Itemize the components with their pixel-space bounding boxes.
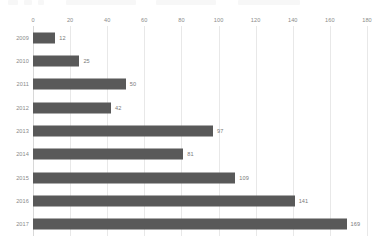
y-axis-label-2010: 2010	[4, 57, 29, 65]
bar-2010	[33, 55, 79, 66]
x-tick-label-160: 160	[325, 15, 335, 26]
y-axis-label-2014: 2014	[4, 150, 29, 158]
x-tick-label-100: 100	[214, 15, 224, 26]
bar-row: 2017169	[0, 213, 378, 236]
x-tick-label-20: 20	[67, 15, 73, 26]
y-axis-label-2016: 2016	[4, 197, 29, 205]
bar-value-label-2011: 50	[130, 80, 136, 88]
bar-value-label-2013: 97	[217, 127, 223, 135]
bar-2016	[33, 195, 295, 206]
bar-row: 201025	[0, 49, 378, 72]
bar-value-label-2016: 141	[299, 197, 309, 205]
bar-2009	[33, 32, 55, 43]
x-tick-label-140: 140	[288, 15, 298, 26]
y-axis-label-2012: 2012	[4, 104, 29, 112]
x-tick-label-60: 60	[141, 15, 147, 26]
bar-row: 201242	[0, 96, 378, 119]
x-tick-label-0: 0	[31, 15, 34, 26]
bar-value-label-2012: 42	[115, 104, 121, 112]
bar-value-label-2015: 109	[239, 174, 249, 182]
y-axis-label-2017: 2017	[4, 220, 29, 228]
cropped-header-artifact	[6, 0, 306, 6]
bar-value-label-2017: 169	[351, 220, 361, 228]
bar-value-label-2014: 81	[187, 150, 193, 158]
bar-row: 2015109	[0, 166, 378, 189]
bar-chart: 020406080100120140160180 200912201025201…	[0, 0, 378, 243]
bar-2012	[33, 102, 111, 113]
bar-row: 201150	[0, 73, 378, 96]
x-tick-label-80: 80	[178, 15, 184, 26]
bar-2015	[33, 172, 235, 183]
bar-2013	[33, 125, 213, 136]
y-axis-label-2009: 2009	[4, 34, 29, 42]
y-axis-label-2015: 2015	[4, 174, 29, 182]
y-axis-label-2013: 2013	[4, 127, 29, 135]
bar-2014	[33, 149, 183, 160]
bar-row: 200912	[0, 26, 378, 49]
x-tick-label-180: 180	[362, 15, 372, 26]
bar-2017	[33, 219, 347, 230]
y-axis-label-2011: 2011	[4, 80, 29, 88]
bar-2011	[33, 79, 126, 90]
bar-row: 2016141	[0, 189, 378, 212]
bar-row: 201397	[0, 119, 378, 142]
x-tick-label-120: 120	[251, 15, 261, 26]
bar-row: 201481	[0, 143, 378, 166]
x-axis-tick-labels: 020406080100120140160180	[0, 15, 378, 26]
bar-value-label-2010: 25	[83, 57, 89, 65]
bar-value-label-2009: 12	[59, 34, 65, 42]
x-tick-label-40: 40	[104, 15, 110, 26]
bar-rows: 2009122010252011502012422013972014812015…	[0, 26, 378, 236]
